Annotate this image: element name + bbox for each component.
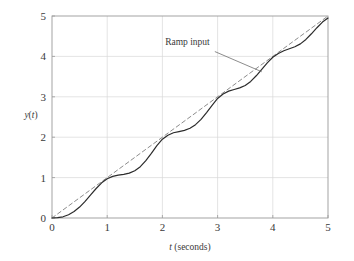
chart-figure: 012345012345 Ramp input t (seconds) y(t) xyxy=(0,0,354,261)
x-tick-label: 1 xyxy=(104,221,110,233)
annotation-leader xyxy=(215,52,262,72)
y-tick-label: 1 xyxy=(41,172,47,184)
y-tick-label: 2 xyxy=(41,131,47,143)
y-tick-label: 3 xyxy=(41,91,47,103)
y-axis-title: y(t) xyxy=(23,110,37,121)
y-tick-label: 4 xyxy=(41,50,47,62)
x-axis-title: t (seconds) xyxy=(169,242,210,253)
ramp-response-plot: 012345012345 Ramp input t (seconds) y(t) xyxy=(0,0,354,261)
x-tick-label: 5 xyxy=(325,221,331,233)
y-axis-title-paren-close: ) xyxy=(34,110,37,121)
x-tick-label: 4 xyxy=(270,221,276,233)
x-axis-title-rest: (seconds) xyxy=(172,242,211,253)
y-tick-label: 0 xyxy=(41,212,47,224)
x-tick-label: 3 xyxy=(215,221,221,233)
y-tick-label: 5 xyxy=(41,10,47,22)
ramp-input-annotation: Ramp input xyxy=(165,37,210,47)
x-tick-label: 0 xyxy=(49,221,55,233)
annotation-leader-line xyxy=(215,52,262,72)
x-tick-label: 2 xyxy=(160,221,166,233)
